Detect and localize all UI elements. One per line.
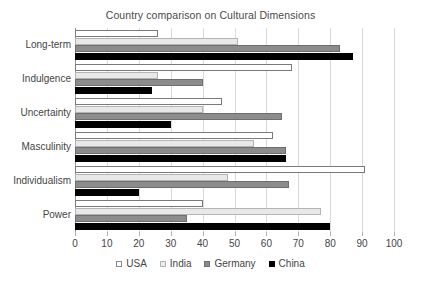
bar-china-masculinity[interactable] — [75, 155, 286, 162]
bar-germany-long-term[interactable] — [75, 45, 340, 52]
y-axis-label-long-term: Long-term — [3, 39, 71, 50]
legend-item-germany[interactable]: Germany — [204, 258, 255, 269]
x-tick-label-40: 40 — [197, 238, 208, 249]
legend-label: China — [279, 258, 305, 269]
x-tick-mark — [139, 232, 140, 236]
y-axis-label-power: Power — [3, 209, 71, 220]
y-axis-label-indulgence: Indulgence — [3, 73, 71, 84]
bar-usa-indulgence[interactable] — [75, 64, 292, 71]
legend-swatch-icon-india — [160, 261, 166, 267]
bar-usa-uncertainty[interactable] — [75, 98, 222, 105]
y-axis-label-uncertainty: Uncertainty — [3, 107, 71, 118]
x-tick-mark — [330, 232, 331, 236]
x-tick-label-60: 60 — [261, 238, 272, 249]
bar-group — [75, 130, 394, 164]
x-tick-label-20: 20 — [133, 238, 144, 249]
bar-germany-power[interactable] — [75, 215, 187, 222]
bar-china-power[interactable] — [75, 223, 330, 230]
bar-chart: Country comparison on Cultural Dimension… — [0, 0, 421, 283]
bar-usa-power[interactable] — [75, 200, 203, 207]
y-axis-label-individualism: Individualism — [3, 175, 71, 186]
legend-label: India — [170, 258, 192, 269]
legend-item-india[interactable]: India — [160, 258, 192, 269]
bar-usa-long-term[interactable] — [75, 30, 158, 37]
legend-label: Germany — [214, 258, 255, 269]
x-tick-mark — [107, 232, 108, 236]
legend-swatch-icon-germany — [204, 261, 210, 267]
bar-germany-individualism[interactable] — [75, 181, 289, 188]
bar-group — [75, 198, 394, 232]
x-tick-mark — [235, 232, 236, 236]
y-axis-category-labels: Long-termIndulgenceUncertaintyMasculinit… — [0, 28, 71, 232]
plot-area — [75, 28, 394, 232]
x-axis-ticks: 0102030405060708090100 — [0, 232, 421, 254]
bar-group — [75, 28, 394, 62]
x-tick-label-80: 80 — [325, 238, 336, 249]
bar-germany-uncertainty[interactable] — [75, 113, 282, 120]
legend-item-china[interactable]: China — [269, 258, 305, 269]
x-tick-mark — [75, 232, 76, 236]
bar-usa-individualism[interactable] — [75, 166, 365, 173]
bar-india-individualism[interactable] — [75, 174, 228, 181]
bar-group — [75, 96, 394, 130]
x-tick-label-10: 10 — [101, 238, 112, 249]
legend-swatch-icon-china — [269, 261, 275, 267]
chart-title: Country comparison on Cultural Dimension… — [0, 9, 421, 21]
x-tick-label-50: 50 — [229, 238, 240, 249]
legend-swatch-icon-usa — [116, 261, 122, 267]
legend-item-usa[interactable]: USA — [116, 258, 147, 269]
x-tick-mark — [203, 232, 204, 236]
x-tick-mark — [298, 232, 299, 236]
bar-group — [75, 62, 394, 96]
x-tick-mark — [362, 232, 363, 236]
bar-usa-masculinity[interactable] — [75, 132, 273, 139]
bar-china-indulgence[interactable] — [75, 87, 152, 94]
bar-india-masculinity[interactable] — [75, 140, 254, 147]
x-tick-label-70: 70 — [293, 238, 304, 249]
legend-label: USA — [126, 258, 147, 269]
bar-india-uncertainty[interactable] — [75, 106, 203, 113]
x-tick-label-0: 0 — [72, 238, 78, 249]
bar-germany-masculinity[interactable] — [75, 147, 286, 154]
y-axis-label-masculinity: Masculinity — [3, 141, 71, 152]
gridline — [394, 28, 395, 232]
bar-india-power[interactable] — [75, 208, 321, 215]
x-tick-label-90: 90 — [357, 238, 368, 249]
x-tick-mark — [266, 232, 267, 236]
bar-germany-indulgence[interactable] — [75, 79, 203, 86]
bar-group — [75, 164, 394, 198]
bar-china-uncertainty[interactable] — [75, 121, 171, 128]
chart-legend: USAIndiaGermanyChina — [0, 258, 421, 269]
x-tick-label-100: 100 — [386, 238, 403, 249]
x-tick-mark — [171, 232, 172, 236]
bar-china-individualism[interactable] — [75, 189, 139, 196]
x-tick-mark — [394, 232, 395, 236]
x-tick-label-30: 30 — [165, 238, 176, 249]
bar-india-long-term[interactable] — [75, 38, 238, 45]
bar-china-long-term[interactable] — [75, 53, 353, 60]
bar-india-indulgence[interactable] — [75, 72, 158, 79]
